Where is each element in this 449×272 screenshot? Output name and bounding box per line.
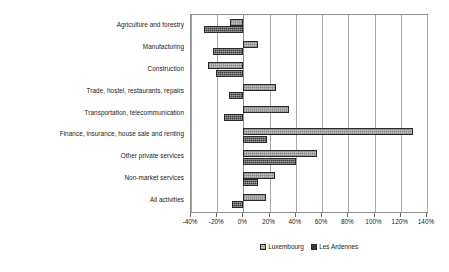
chart-legend: LuxembourgLes Ardennes: [190, 240, 428, 254]
axis-tick-label: 20%: [262, 218, 275, 226]
axis-tick: [295, 213, 296, 217]
bar-luxembourg: [243, 194, 265, 201]
axis-tick: [374, 213, 375, 217]
value-axis: -40%-20%0%20%40%60%80%100%120%140%: [190, 213, 428, 235]
axis-tick: [347, 213, 348, 217]
bar-luxembourg: [243, 172, 274, 179]
gridline-100: [375, 15, 376, 212]
bar-luxembourg: [243, 41, 257, 48]
bar-les-ardennes: [204, 26, 243, 33]
category-label: Manufacturing: [143, 43, 184, 51]
bar-luxembourg: [243, 150, 316, 157]
axis-tick: [269, 213, 270, 217]
bar-les-ardennes: [213, 48, 243, 55]
legend-swatch-luxembourg: [260, 244, 266, 250]
axis-tick-label: 60%: [315, 218, 328, 226]
category-label: Other private services: [121, 152, 184, 160]
bar-les-ardennes: [243, 179, 257, 186]
axis-tick-label: 140%: [418, 218, 434, 226]
axis-tick-label: 0%: [238, 218, 247, 226]
axis-tick: [400, 213, 401, 217]
category-label: Agriculture and forestry: [117, 21, 184, 29]
gridline-120: [401, 15, 402, 212]
bar-luxembourg: [208, 62, 243, 69]
axis-tick-label: 120%: [392, 218, 408, 226]
plot-area: [190, 14, 428, 213]
bar-les-ardennes: [243, 158, 295, 165]
axis-tick: [216, 213, 217, 217]
gridline-neg40: [191, 15, 192, 212]
axis-tick-label: -20%: [209, 218, 224, 226]
axis-tick-label: -40%: [183, 218, 198, 226]
gridline-40: [296, 15, 297, 212]
bar-les-ardennes: [243, 136, 267, 143]
axis-tick: [190, 213, 191, 217]
gridline-80: [348, 15, 349, 212]
bar-les-ardennes: [232, 201, 244, 208]
bar-les-ardennes: [224, 114, 244, 121]
gridline-neg20: [217, 15, 218, 212]
legend-label: Luxembourg: [268, 243, 304, 251]
bar-luxembourg: [243, 84, 276, 91]
axis-tick-label: 80%: [341, 218, 354, 226]
legend-label: Les Ardennes: [319, 243, 358, 251]
bar-luxembourg: [243, 106, 289, 113]
gridline-20: [270, 15, 271, 212]
legend-swatch-les-ardennes: [311, 244, 317, 250]
axis-tick-label: 40%: [288, 218, 301, 226]
bar-les-ardennes: [216, 70, 244, 77]
category-label: Transportation, telecommunication: [85, 109, 184, 117]
axis-tick: [321, 213, 322, 217]
category-axis-labels: Agriculture and forestryManufacturingCon…: [0, 14, 190, 213]
gridline-140: [427, 15, 428, 212]
bar-les-ardennes: [229, 92, 243, 99]
legend-item-luxembourg[interactable]: Luxembourg: [260, 243, 304, 251]
category-label: Construction: [148, 65, 184, 73]
category-label: Non-market services: [124, 174, 184, 182]
axis-tick: [242, 213, 243, 217]
gridline-60: [322, 15, 323, 212]
category-label: All activities: [150, 196, 184, 204]
legend-item-les-ardennes[interactable]: Les Ardennes: [311, 243, 359, 251]
category-label: Trade, hostel, restaurants, repairs: [87, 87, 184, 95]
axis-tick: [426, 213, 427, 217]
bar-luxembourg: [243, 128, 412, 135]
bar-chart: Agriculture and forestryManufacturingCon…: [0, 0, 449, 272]
axis-tick-label: 100%: [365, 218, 381, 226]
bar-luxembourg: [230, 19, 243, 26]
category-label: Finance, insurance, house sale and renti…: [60, 130, 184, 138]
